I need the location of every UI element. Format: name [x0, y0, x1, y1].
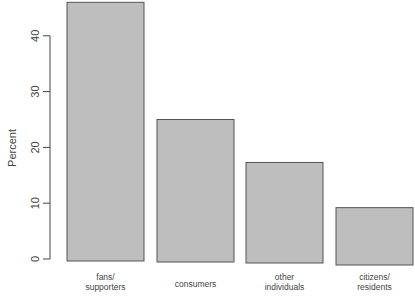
bar — [336, 208, 413, 265]
x-tick-label: supporters — [85, 282, 125, 292]
bar — [157, 120, 234, 263]
bars — [67, 2, 413, 265]
x-tick-label: residents — [357, 282, 392, 292]
y-axis-label: Percent — [6, 129, 18, 167]
y-tick-label: 20 — [29, 141, 41, 153]
x-tick-label: other — [275, 272, 295, 282]
x-tick-label: consumers — [175, 279, 217, 289]
y-tick-label: 10 — [29, 197, 41, 209]
x-tick-label: citizens/ — [359, 272, 390, 282]
x-axis-labels: fans/supportersconsumersotherindividuals… — [85, 272, 391, 292]
y-tick-label: 40 — [29, 30, 41, 42]
x-tick-label: fans/ — [96, 272, 115, 282]
x-tick-label: individuals — [265, 282, 305, 292]
bar-chart: 010203040 Percent fans/supportersconsume… — [0, 0, 415, 298]
y-tick-label: 0 — [29, 256, 41, 262]
bar — [246, 162, 323, 263]
y-axis: 010203040 — [29, 30, 50, 262]
y-tick-label: 30 — [29, 85, 41, 97]
bar — [67, 2, 144, 261]
chart-canvas: 010203040 Percent fans/supportersconsume… — [0, 0, 415, 298]
